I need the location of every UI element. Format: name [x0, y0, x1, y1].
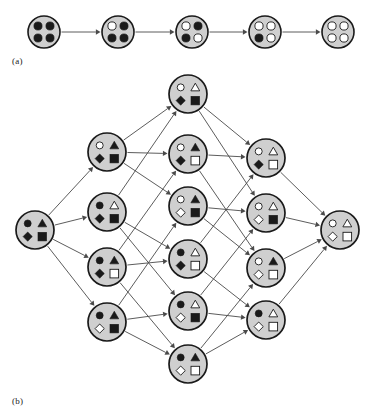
figure-lattice-diagram: (a) (b) — [0, 0, 371, 415]
panel-b-glyph-m4-circle — [177, 249, 184, 256]
panel-b-node-m4 — [169, 240, 207, 278]
panel-b-glyph-m5-square — [191, 313, 200, 322]
panel-b-node-c4 — [88, 303, 126, 341]
panel-b-glyph-c3-square — [110, 269, 119, 278]
panel-b-node-d4 — [247, 301, 285, 339]
panel-b-label: (b) — [12, 396, 23, 406]
panel-b-node-body-d1 — [247, 139, 285, 177]
panel-b-node-s — [16, 211, 54, 249]
panel-b-node-m6 — [169, 345, 207, 383]
panel-b-node-body-t — [321, 211, 359, 249]
panel-b-glyph-d4-square — [269, 322, 278, 331]
panel-b-glyph-d3-square — [269, 270, 278, 279]
panel-b-glyph-s-circle — [24, 220, 31, 227]
panel-b-glyph-c4-square — [110, 324, 119, 333]
panel-b-node-m1 — [169, 75, 207, 113]
panel-b-glyph-m3-circle — [177, 196, 184, 203]
panel-b-glyph-m6-square — [191, 366, 200, 375]
panel-b-glyph-d1-square — [269, 160, 278, 169]
panel-b-node-c3 — [88, 248, 126, 286]
panel-b-glyph-t-square — [343, 232, 352, 241]
panel-b-node-body-m2 — [169, 135, 207, 173]
panel-b-node-body-d2 — [247, 194, 285, 232]
panel-b-glyph-c2-circle — [96, 202, 103, 209]
panel-b-glyph-m5-circle — [177, 301, 184, 308]
panel-b-glyph-d2-circle — [255, 203, 262, 210]
panel-b-node-body-c1 — [88, 133, 126, 171]
panel-b-node-body-c3 — [88, 248, 126, 286]
panel-b-node-m3 — [169, 187, 207, 225]
panel-b-node-c2 — [88, 193, 126, 231]
panel-b-node-body-d3 — [247, 249, 285, 287]
panel-b-glyph-d1-circle — [255, 148, 262, 155]
panel-b-glyph-m1-circle — [177, 84, 184, 91]
panel-b-glyph-c1-circle — [96, 142, 103, 149]
panel-b-node-d1 — [247, 139, 285, 177]
panel-b-node-body-m4 — [169, 240, 207, 278]
panel-b-glyph-d3-circle — [255, 258, 262, 265]
panel-b-node-m2 — [169, 135, 207, 173]
panel-b-node-d2 — [247, 194, 285, 232]
panel-b-node-body-m3 — [169, 187, 207, 225]
panel-a-label: (a) — [12, 56, 23, 66]
panel-b-node-body-m1 — [169, 75, 207, 113]
panel-b-glyph-s-square — [38, 232, 47, 241]
panel-b-nodes — [0, 0, 371, 415]
panel-b-glyph-m2-square — [191, 156, 200, 165]
panel-b-glyph-d2-square — [269, 215, 278, 224]
panel-b-node-body-s — [16, 211, 54, 249]
panel-b-node-body-c4 — [88, 303, 126, 341]
panel-b-glyph-c1-square — [110, 154, 119, 163]
panel-b-glyph-c2-square — [110, 214, 119, 223]
panel-b-glyph-c4-circle — [96, 312, 103, 319]
panel-b-node-t — [321, 211, 359, 249]
panel-b-node-body-c2 — [88, 193, 126, 231]
panel-b-glyph-m2-circle — [177, 144, 184, 151]
panel-b-glyph-t-circle — [329, 220, 336, 227]
panel-b-node-m5 — [169, 292, 207, 330]
panel-b-glyph-c3-circle — [96, 257, 103, 264]
panel-b-node-body-m5 — [169, 292, 207, 330]
panel-b-glyph-m6-circle — [177, 354, 184, 361]
panel-b-glyph-m4-square — [191, 261, 200, 270]
panel-b-glyph-d4-circle — [255, 310, 262, 317]
panel-b-node-d3 — [247, 249, 285, 287]
panel-b-glyph-m1-square — [191, 96, 200, 105]
panel-b-node-body-m6 — [169, 345, 207, 383]
panel-b-node-body-d4 — [247, 301, 285, 339]
panel-b-glyph-m3-square — [191, 208, 200, 217]
panel-b-node-c1 — [88, 133, 126, 171]
